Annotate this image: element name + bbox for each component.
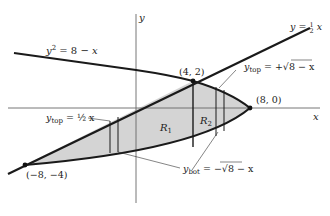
- point-label-4-2: (4, 2): [179, 66, 205, 77]
- point-label-neg8-neg4: (−8, −4): [26, 169, 67, 180]
- leader-ybot-left: [118, 152, 180, 168]
- point-8-0: [248, 106, 253, 111]
- diagram-canvas: x y (4, 2) (8, 0) (−8, −4) R1 R2 y2 = 8 …: [0, 0, 330, 216]
- point-4-2: [191, 79, 196, 84]
- point-label-8-0: (8, 0): [256, 94, 282, 105]
- leader-ytop-parabola: [219, 70, 236, 88]
- annotation-ybot-parabola: ybot = −√8 − x: [182, 163, 254, 176]
- annotation-ytop-line: ytop = ½ x: [45, 112, 95, 125]
- x-axis-label: x: [313, 111, 319, 122]
- parabola-equation-label: y2 = 8 − x: [45, 44, 98, 56]
- point-neg8-neg4: [23, 163, 28, 168]
- annotation-ytop-parabola: ytop = +√8 − x: [243, 61, 315, 74]
- y-axis-label: y: [138, 12, 145, 23]
- line-equation-label: y = 12 x: [289, 21, 323, 35]
